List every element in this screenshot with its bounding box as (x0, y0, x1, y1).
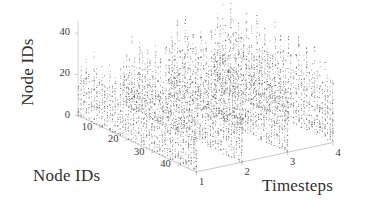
data-point (311, 115, 312, 116)
data-point (140, 49, 141, 50)
data-point (306, 60, 307, 61)
data-point (264, 59, 265, 60)
data-point (231, 126, 232, 127)
data-point (235, 53, 236, 54)
data-point (272, 65, 273, 66)
data-point (220, 84, 221, 85)
data-point (190, 72, 191, 73)
data-point (253, 85, 254, 86)
data-point (238, 26, 239, 27)
data-point (169, 130, 170, 131)
data-point (325, 135, 326, 136)
data-point (152, 102, 153, 103)
data-point (225, 60, 226, 61)
data-point (255, 96, 256, 97)
data-point (219, 70, 220, 71)
data-point (187, 72, 188, 73)
data-point (134, 95, 135, 96)
data-point (227, 115, 228, 116)
data-point (138, 99, 139, 100)
data-point (94, 106, 95, 107)
data-point (120, 94, 121, 95)
data-point (223, 54, 224, 55)
data-point (170, 77, 171, 78)
data-point (172, 153, 173, 154)
data-point (327, 139, 328, 140)
data-point (269, 72, 270, 73)
data-point (287, 151, 288, 152)
data-point (202, 137, 203, 138)
data-point (282, 148, 283, 149)
data-point (240, 112, 241, 113)
data-point (229, 78, 230, 79)
data-point (177, 25, 178, 26)
data-point (230, 85, 231, 86)
data-point (200, 135, 201, 136)
data-point (170, 87, 171, 88)
data-point (177, 142, 178, 143)
data-point (168, 130, 169, 131)
data-point (277, 52, 278, 53)
data-point (104, 94, 105, 95)
data-point (123, 101, 124, 102)
data-point (235, 87, 236, 88)
data-point (239, 129, 240, 130)
data-point (246, 80, 247, 81)
data-point (266, 107, 267, 108)
data-point (333, 133, 334, 134)
data-point (255, 122, 256, 123)
data-point (215, 76, 216, 77)
data-point (312, 131, 313, 132)
data-point (212, 136, 213, 137)
data-point (216, 137, 217, 138)
data-point (154, 129, 155, 130)
data-point (330, 80, 331, 81)
data-point (307, 72, 308, 73)
data-point (162, 87, 163, 88)
data-point (141, 122, 142, 123)
data-point (291, 69, 292, 70)
data-point (188, 167, 189, 168)
data-point (137, 74, 138, 75)
data-point (131, 139, 132, 140)
data-point (109, 87, 110, 88)
data-point (236, 68, 237, 69)
data-point (188, 139, 189, 140)
data-point (201, 40, 202, 41)
data-point (177, 85, 178, 86)
data-point (333, 130, 334, 131)
data-point (269, 118, 270, 119)
data-point (230, 42, 231, 43)
data-point (190, 76, 191, 77)
data-point (214, 79, 215, 80)
data-point (221, 141, 222, 142)
data-point (231, 140, 232, 141)
data-point (276, 121, 277, 122)
data-point (293, 113, 294, 114)
data-point (171, 123, 172, 124)
data-point (131, 75, 132, 76)
data-point (224, 116, 225, 117)
data-point (224, 90, 225, 91)
data-point (231, 141, 232, 142)
data-point (189, 108, 190, 109)
data-point (193, 152, 194, 153)
data-point (277, 109, 278, 110)
data-point (142, 53, 143, 54)
data-point (184, 128, 185, 129)
data-point (223, 55, 224, 56)
data-point (251, 55, 252, 56)
data-point (180, 119, 181, 120)
data-point (261, 124, 262, 125)
data-point (320, 124, 321, 125)
data-point (235, 123, 236, 124)
data-point (125, 129, 126, 130)
data-point (124, 87, 125, 88)
data-point (243, 79, 244, 80)
data-point (123, 127, 124, 128)
data-point (264, 117, 265, 118)
data-point (243, 97, 244, 98)
data-point (86, 59, 87, 60)
data-point (110, 131, 111, 132)
data-point (132, 78, 133, 79)
